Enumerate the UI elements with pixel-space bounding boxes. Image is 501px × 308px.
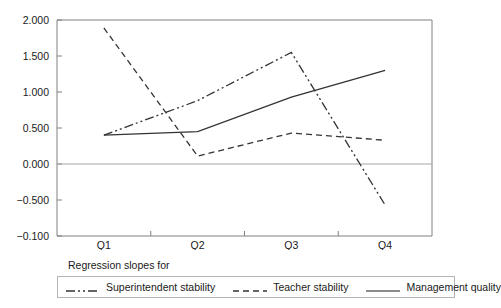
y-tick-label: −0.500 (17, 194, 50, 206)
legend-title: Regression slopes for (68, 259, 170, 271)
y-tick-labels: 2.0001.5001.0000.5000.000−0.500−0.100 (17, 14, 50, 242)
legend-label: Superintendent stability (106, 281, 215, 293)
x-tick-label: Q3 (284, 239, 298, 250)
legend-entry-teacher-stability: Teacher stability (233, 281, 348, 293)
legend-swatch-icon (66, 282, 100, 292)
series-line-management-quality (104, 70, 385, 135)
legend-entry-management-quality: Management quality (366, 281, 501, 293)
plot-area: 2.0001.5001.0000.5000.000−0.500−0.100 Q1… (0, 0, 462, 250)
data-series-group (104, 28, 385, 205)
x-tick-marks (151, 231, 339, 236)
y-tick-label: 0.000 (23, 158, 49, 170)
legend-label: Management quality (406, 281, 501, 293)
x-tick-label: Q1 (97, 239, 111, 250)
x-tick-label: Q2 (191, 239, 205, 250)
y-tick-label: 1.000 (23, 86, 49, 98)
y-tick-marks (57, 20, 62, 236)
series-line-superintendent-stability (104, 52, 385, 205)
x-tick-label: Q4 (378, 239, 392, 250)
legend-swatch-icon (233, 282, 267, 292)
legend-swatch-icon (366, 282, 400, 292)
chart-legend: Superintendent stabilityTeacher stabilit… (57, 276, 455, 298)
y-axis-group: 2.0001.5001.0000.5000.000−0.500−0.100 (17, 14, 62, 242)
y-tick-label: 1.500 (23, 50, 49, 62)
y-tick-label: −0.100 (17, 230, 50, 242)
y-tick-label: 0.500 (23, 122, 49, 134)
legend-entry-superintendent-stability: Superintendent stability (66, 281, 215, 293)
x-tick-labels: Q1Q2Q3Q4 (97, 239, 392, 250)
y-tick-label: 2.000 (23, 14, 49, 26)
legend-label: Teacher stability (273, 281, 348, 293)
